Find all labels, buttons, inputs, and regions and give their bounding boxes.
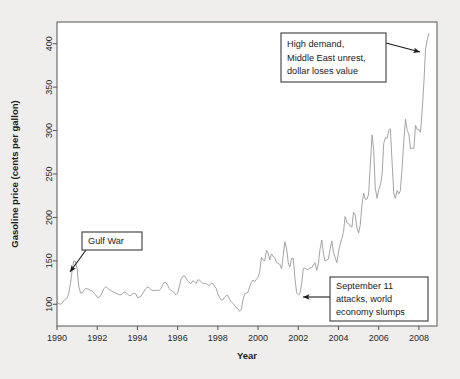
annotation-text-line: September 11 (336, 281, 393, 291)
x-tick-label: 1994 (127, 333, 147, 343)
x-tick-label: 2000 (248, 333, 268, 343)
x-tick-label: 1996 (168, 333, 188, 343)
y-tick-label: 200 (44, 210, 54, 225)
x-tick-label: 2004 (328, 333, 348, 343)
y-tick-label: 400 (44, 36, 54, 51)
x-tick-label: 2008 (409, 333, 429, 343)
x-tick-label: 1992 (87, 333, 107, 343)
x-tick-label: 2006 (369, 333, 389, 343)
annotation-text-line: economy slumps (336, 307, 405, 317)
y-tick-label: 150 (44, 253, 54, 268)
annotation-text-line: attacks, world (336, 294, 392, 304)
annotation-text-line: High demand, (287, 39, 344, 49)
x-tick-label: 1990 (47, 333, 67, 343)
x-tick-label: 1998 (208, 333, 228, 343)
y-axis-title: Gasoline price (cents per gallon) (9, 100, 20, 247)
y-tick-label: 100 (44, 297, 54, 312)
y-tick-label: 300 (44, 123, 54, 138)
gasoline-price-chart: 100150200250300350400 199019921994199619… (0, 0, 460, 379)
annotation-text-line: Gulf War (88, 236, 124, 246)
annotation-text-line: dollar loses value (287, 66, 358, 76)
x-axis-title: Year (237, 350, 257, 361)
annotation-text-line: Middle East unrest, (287, 53, 366, 63)
y-tick-label: 250 (44, 166, 54, 181)
x-tick-label: 2002 (288, 333, 308, 343)
figure-container: 100150200250300350400 199019921994199619… (0, 0, 460, 379)
y-tick-label: 350 (44, 80, 54, 95)
